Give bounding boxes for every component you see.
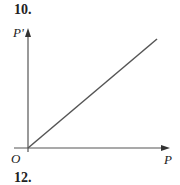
x-axis-arrow-icon (161, 145, 170, 151)
y-axis-arrow-icon (25, 28, 31, 37)
x-axis-label: P (164, 152, 172, 168)
problem-number-12: 12. (14, 170, 32, 185)
data-line (28, 39, 157, 148)
origin-label: O (11, 151, 20, 167)
chart-plot (0, 0, 180, 185)
